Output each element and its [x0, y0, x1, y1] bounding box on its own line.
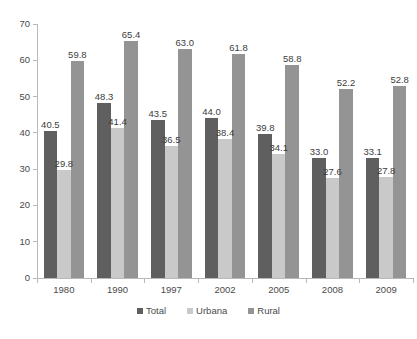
x-axis-label-1980: 1980 — [37, 285, 91, 295]
bar-label-total-2009: 33.1 — [359, 147, 387, 157]
x-axis-label-2005: 2005 — [252, 285, 306, 295]
x-axis-label-2002: 2002 — [198, 285, 252, 295]
bar-label-urbana-1990: 41.4 — [104, 117, 132, 127]
x-axis-tick — [37, 278, 38, 283]
bar-rural-2005 — [285, 65, 299, 278]
x-axis-tick — [413, 278, 414, 283]
bar-total-2002 — [205, 118, 219, 278]
bar-label-total-1997: 43.5 — [144, 109, 172, 119]
bar-rural-1990 — [124, 41, 138, 278]
bar-urbana-2009 — [379, 177, 393, 278]
bar-rural-2002 — [232, 54, 246, 278]
bar-total-1990 — [97, 103, 111, 278]
y-axis-tick-label: 50 — [2, 92, 30, 102]
bar-label-rural-2005: 58.8 — [278, 54, 306, 64]
x-axis-line — [37, 278, 413, 279]
x-axis-tick — [359, 278, 360, 283]
y-axis-tick-label: 10 — [2, 237, 30, 247]
bar-rural-1997 — [178, 49, 192, 278]
y-axis-tick-label: 70 — [2, 19, 30, 29]
bar-urbana-1980 — [57, 170, 71, 278]
y-axis-tick-label: 30 — [2, 164, 30, 174]
legend-swatch-icon — [137, 308, 143, 314]
bar-label-urbana-2002: 38.4 — [211, 128, 239, 138]
x-axis-tick — [252, 278, 253, 283]
bar-urbana-2008 — [326, 178, 340, 278]
y-axis-tick-label: 0 — [2, 273, 30, 283]
bar-label-rural-1997: 63.0 — [171, 38, 199, 48]
bar-total-1980 — [44, 131, 58, 278]
y-axis-tick-label: 20 — [2, 200, 30, 210]
legend-item-rural[interactable]: Rural — [248, 306, 280, 316]
bar-label-total-2008: 33.0 — [305, 147, 333, 157]
x-axis-label-1997: 1997 — [144, 285, 198, 295]
bar-label-rural-2008: 52.2 — [332, 78, 360, 88]
x-axis-label-1990: 1990 — [91, 285, 145, 295]
bar-label-urbana-1980: 29.8 — [50, 159, 78, 169]
chart-legend: TotalUrbanaRural — [0, 306, 417, 316]
bar-label-urbana-2005: 34.1 — [265, 143, 293, 153]
bar-total-2005 — [258, 134, 272, 278]
bar-rural-1980 — [71, 61, 85, 278]
legend-swatch-icon — [248, 308, 254, 314]
bar-label-total-1980: 40.5 — [36, 120, 64, 130]
bar-chart: 010203040506070 198019901997200220052008… — [0, 0, 417, 339]
bar-label-urbana-2008: 27.6 — [318, 167, 346, 177]
bar-label-rural-1980: 59.8 — [63, 50, 91, 60]
bar-rural-2009 — [393, 86, 407, 278]
x-axis-label-2009: 2009 — [359, 285, 413, 295]
bar-urbana-1997 — [165, 146, 179, 278]
bar-label-total-2005: 39.8 — [251, 123, 279, 133]
legend-item-urbana[interactable]: Urbana — [187, 306, 227, 316]
x-axis-label-2008: 2008 — [306, 285, 360, 295]
bar-urbana-2005 — [272, 154, 286, 278]
bar-label-rural-2009: 52.8 — [386, 75, 414, 85]
legend-swatch-icon — [187, 308, 193, 314]
legend-label: Total — [146, 306, 166, 316]
bar-label-total-2002: 44.0 — [198, 107, 226, 117]
x-axis-tick — [198, 278, 199, 283]
y-axis-tick-label: 60 — [2, 55, 30, 65]
x-axis-tick — [144, 278, 145, 283]
x-axis-tick — [306, 278, 307, 283]
legend-label: Rural — [257, 306, 280, 316]
legend-item-total[interactable]: Total — [137, 306, 166, 316]
bar-label-rural-1990: 65.4 — [117, 30, 145, 40]
bar-label-urbana-1997: 36.5 — [157, 135, 185, 145]
bar-label-rural-2002: 61.8 — [225, 43, 253, 53]
bar-label-total-1990: 48.3 — [90, 92, 118, 102]
bar-label-urbana-2009: 27.8 — [372, 166, 400, 176]
bar-rural-2008 — [339, 89, 353, 278]
plot-area — [37, 24, 413, 278]
y-axis-tick-label: 40 — [2, 128, 30, 138]
x-axis-tick — [91, 278, 92, 283]
bar-urbana-1990 — [111, 128, 125, 278]
legend-label: Urbana — [196, 306, 227, 316]
bar-urbana-2002 — [218, 139, 232, 278]
